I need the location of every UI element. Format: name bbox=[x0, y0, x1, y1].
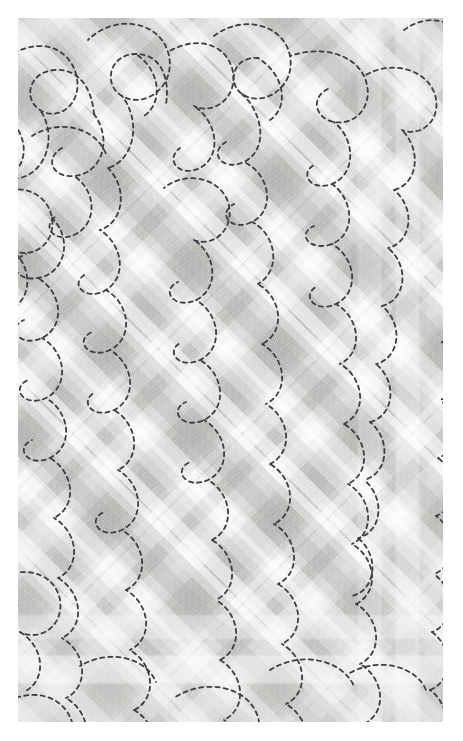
stitch-path bbox=[52, 114, 103, 176]
stitch-path bbox=[84, 290, 126, 353]
stitch-path bbox=[376, 306, 396, 364]
plaid-band-set-descending bbox=[18, 18, 443, 722]
stitch-path bbox=[32, 127, 106, 154]
stitch-path bbox=[24, 398, 66, 461]
stitch-path bbox=[173, 106, 214, 171]
stitch-path bbox=[18, 250, 27, 310]
stitch-path bbox=[164, 178, 230, 242]
quilting-stitch-layer bbox=[18, 18, 443, 722]
stitch-path bbox=[352, 544, 372, 604]
stitch-path bbox=[278, 584, 298, 644]
stitch-path bbox=[79, 230, 120, 294]
stitch-path bbox=[434, 516, 443, 574]
stitch-path bbox=[216, 600, 236, 660]
plaid-ascending-svg bbox=[18, 18, 443, 722]
plaid-band-set-ascending bbox=[18, 18, 443, 722]
stitch-path bbox=[394, 130, 415, 190]
stitch-path bbox=[436, 458, 443, 516]
stitch-path bbox=[382, 248, 402, 306]
weave-texture-layer bbox=[18, 18, 443, 722]
stitch-path bbox=[438, 400, 443, 458]
stitch-path bbox=[18, 572, 60, 635]
stitch-path-group bbox=[18, 20, 443, 722]
stitch-path bbox=[170, 240, 213, 303]
stitch-path bbox=[66, 698, 86, 722]
stitch-path bbox=[96, 470, 138, 533]
stitch-path bbox=[174, 300, 216, 363]
stitch-path bbox=[224, 720, 244, 722]
stitch-path bbox=[212, 540, 232, 600]
stitch-path bbox=[352, 538, 372, 596]
stitch-path bbox=[270, 464, 290, 524]
stitch-path bbox=[432, 574, 443, 632]
stitch-path bbox=[404, 20, 443, 44]
stitch-path bbox=[100, 168, 121, 230]
stitch-path bbox=[440, 342, 443, 400]
stitch-path bbox=[258, 284, 278, 344]
fabric-swatch-image bbox=[0, 0, 463, 741]
stitch-path bbox=[214, 24, 291, 98]
stitch-path bbox=[88, 350, 130, 413]
stitch-path bbox=[274, 524, 294, 584]
quilting-stitch-svg bbox=[18, 18, 443, 722]
stitch-path bbox=[348, 665, 426, 690]
cloth-base-layer bbox=[18, 18, 443, 722]
stitch-path bbox=[18, 218, 64, 279]
stitch-path bbox=[358, 480, 378, 538]
stitch-path bbox=[58, 578, 78, 638]
stitch-path bbox=[136, 54, 157, 116]
stitch-path bbox=[310, 244, 352, 307]
horizontal-highlight-bands bbox=[18, 18, 443, 722]
stitch-path bbox=[360, 664, 380, 722]
stitch-path bbox=[282, 644, 302, 704]
stitch-path bbox=[218, 94, 261, 165]
plaid-descending-fill bbox=[18, 18, 443, 722]
plaid-ascending-fill bbox=[18, 18, 443, 722]
stitch-path bbox=[262, 344, 282, 404]
stitch-path bbox=[130, 650, 150, 710]
stitch-path bbox=[340, 364, 360, 424]
stitch-path bbox=[266, 404, 286, 464]
stitch-path bbox=[364, 68, 436, 132]
stitch-path bbox=[108, 96, 133, 168]
stitch-path bbox=[18, 695, 73, 722]
stitch-path bbox=[344, 424, 364, 484]
stitch-path bbox=[49, 176, 91, 237]
stitch-path bbox=[114, 410, 134, 470]
stitch-path bbox=[356, 604, 376, 664]
stitch-path bbox=[208, 480, 228, 540]
stitch-path bbox=[370, 364, 390, 422]
stitch-path bbox=[220, 660, 240, 720]
stitch-path bbox=[88, 24, 170, 104]
stitch-path bbox=[54, 518, 74, 578]
stitch-path bbox=[168, 43, 233, 108]
stitch-path bbox=[62, 638, 82, 698]
fabric-panel bbox=[18, 18, 443, 722]
stitch-path bbox=[20, 338, 62, 401]
stitch-path bbox=[174, 687, 259, 722]
stitch-path bbox=[126, 590, 146, 650]
stitch-path bbox=[18, 110, 49, 179]
stitch-path bbox=[182, 420, 224, 483]
stitch-path bbox=[258, 58, 282, 120]
stitch-path bbox=[430, 632, 443, 690]
vertical-highlight-bands bbox=[18, 18, 443, 722]
stitch-path bbox=[178, 360, 220, 423]
stitch-path bbox=[307, 122, 350, 186]
stitch-path bbox=[336, 304, 356, 364]
stitch-path bbox=[226, 162, 267, 225]
stitch-path bbox=[442, 284, 443, 342]
stitch-path bbox=[18, 114, 24, 178]
stitch-path bbox=[20, 632, 40, 692]
stitch-path bbox=[18, 189, 52, 253]
stitch-path bbox=[50, 458, 70, 518]
stitch-path bbox=[80, 657, 156, 682]
stitch-path bbox=[388, 190, 408, 248]
stitch-path bbox=[122, 530, 142, 590]
stitch-path bbox=[134, 710, 154, 722]
stitch-path bbox=[364, 422, 384, 480]
stitch-path bbox=[290, 51, 368, 122]
plaid-descending-svg bbox=[18, 18, 443, 722]
stitch-path bbox=[286, 704, 306, 722]
stitch-path bbox=[306, 184, 349, 246]
